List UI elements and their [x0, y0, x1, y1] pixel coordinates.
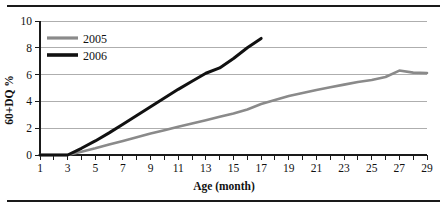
- y-tick-label: 4: [26, 95, 32, 107]
- y-tick-label: 0: [26, 149, 32, 161]
- x-tick-label: 1: [37, 162, 43, 174]
- y-tick-label: 8: [26, 42, 32, 54]
- x-tick-label: 7: [120, 162, 126, 174]
- legend-label-2005: 2005: [83, 32, 107, 46]
- line-chart: 1357911131517192123252729 0246810 200520…: [0, 0, 447, 212]
- x-tick-label: 15: [228, 162, 240, 174]
- y-axis-title: 60+DQ %: [3, 75, 15, 125]
- y-tick-label: 2: [26, 122, 32, 134]
- x-tick-label: 13: [200, 162, 212, 174]
- y-tick-label: 6: [26, 69, 32, 81]
- series-line-2005: [40, 71, 427, 155]
- x-axis-title: Age (month): [193, 180, 255, 193]
- legend-label-2006: 2006: [83, 49, 107, 63]
- x-tick-labels-group: 1357911131517192123252729: [37, 162, 433, 174]
- y-tick-labels-group: 0246810: [21, 15, 33, 161]
- x-tick-label: 25: [366, 162, 378, 174]
- x-tick-label: 11: [173, 162, 184, 174]
- x-tick-label: 23: [338, 162, 350, 174]
- x-tick-label: 21: [311, 162, 323, 174]
- x-tick-label: 17: [255, 162, 267, 174]
- figure-container: 1357911131517192123252729 0246810 200520…: [0, 0, 447, 212]
- x-tick-label: 9: [148, 162, 154, 174]
- x-tick-label: 27: [394, 162, 406, 174]
- x-tick-label: 3: [65, 162, 71, 174]
- chart-legend: 20052006: [47, 32, 107, 63]
- chart-plot-area: 1357911131517192123252729 0246810 200520…: [0, 0, 447, 212]
- x-tick-label: 29: [421, 162, 433, 174]
- y-tick-label: 10: [21, 15, 33, 27]
- x-tick-label: 5: [92, 162, 98, 174]
- x-tick-label: 19: [283, 162, 295, 174]
